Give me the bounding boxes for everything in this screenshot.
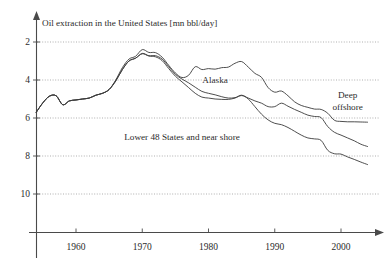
x-axis-arrowhead: [375, 229, 384, 236]
oil-extraction-line-chart: 108642 19601970198019902000 Oil extracti…: [0, 0, 389, 265]
x-tick-label-2000: 2000: [332, 242, 351, 252]
x-tick-label-1980: 1980: [199, 242, 218, 252]
x-tick-labels: 19601970198019902000: [67, 242, 351, 252]
y-tick-label-4: 4: [25, 75, 30, 85]
series-line-0: [36, 50, 367, 123]
data-curves: [36, 50, 367, 165]
y-axis-arrowhead: [33, 11, 40, 20]
annotation-lower-48-states-and-near-shore: Lower 48 States and near shore: [124, 132, 240, 142]
annotation-deep: Deep: [338, 90, 358, 100]
y-tick-label-8: 8: [25, 151, 30, 161]
annotation-offshore: offshore: [332, 102, 362, 112]
x-tick-marks: [76, 229, 341, 233]
y-tick-labels: 108642: [21, 37, 41, 199]
x-tick-label-1960: 1960: [67, 242, 86, 252]
y-tick-label-10: 10: [21, 189, 31, 199]
x-tick-label-1990: 1990: [265, 242, 284, 252]
chart-title: Oil extraction in the United States [mn …: [42, 18, 217, 28]
y-tick-label-6: 6: [25, 113, 30, 123]
chart-container: 108642 19601970198019902000 Oil extracti…: [0, 0, 389, 265]
annotation-alaska: Alaska: [202, 75, 228, 85]
y-tick-label-2: 2: [25, 37, 30, 47]
series-annotations: AlaskaAlaskaDeepDeepoffshoreoffshoreLowe…: [124, 75, 363, 142]
x-tick-label-1970: 1970: [133, 242, 152, 252]
gridlines: [37, 42, 379, 194]
